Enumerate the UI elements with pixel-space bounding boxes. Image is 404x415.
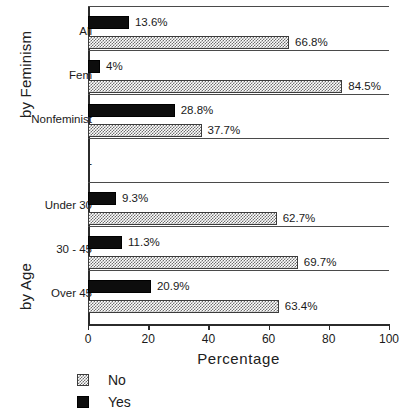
x-tick-0 [88,324,89,330]
bar-value-yes-nonfeminist: 28.8% [181,104,214,117]
bar-value-yes-30-45: 11.3% [128,236,160,249]
category-label-over-45: Over 45 [51,288,92,300]
bar-value-yes-fem: 4% [106,60,123,73]
x-tick-label-40: 40 [202,332,215,346]
bar-value-yes-over-45: 20.9% [157,280,190,293]
x-tick-label-100: 100 [379,332,399,346]
bar-value-no-nonfeminist: 37.7% [208,124,241,137]
legend-label-yes: Yes [108,393,131,411]
x-tick-60 [269,324,270,330]
group-axis-title-feminism: by Feminism [17,31,34,118]
x-tick-40 [208,324,209,330]
x-tick-label-80: 80 [322,332,335,346]
checker-swatch-icon [77,374,89,386]
bar-yes-fem [88,60,100,73]
x-axis-line [88,324,389,326]
category-label-under-30: Under 30 [45,200,92,212]
category-label-nonfeminist: Nonfeminist [31,114,92,126]
bar-value-yes-all: 13.6% [135,16,168,29]
bar-yes-30-45 [88,236,122,249]
group-axis-title-age: by Age [17,263,34,310]
bar-value-no-under-30: 62.7% [283,212,316,225]
solid-swatch-icon [77,396,89,408]
bar-no-fem [88,80,342,93]
x-tick-label-60: 60 [262,332,275,346]
bar-no-30-45 [88,256,298,269]
bar-value-no-all: 66.8% [295,36,328,49]
category-label-30-45: 30 - 45 [56,244,92,256]
bar-yes-all [88,16,129,29]
x-tick-label-20: 20 [142,332,155,346]
bar-value-no-30-45: 69.7% [304,256,337,269]
bar-yes-under-30 [88,192,116,205]
bar-value-no-over-45: 63.4% [285,300,318,313]
bar-no-over-45 [88,300,279,313]
bar-value-yes-under-30: 9.3% [122,192,148,205]
bar-yes-over-45 [88,280,151,293]
grouped-bar-chart: by Feminism by Age All Fem Nonfeminist -… [0,0,404,415]
bar-no-under-30 [88,212,277,225]
bar-yes-nonfeminist [88,104,175,117]
bar-value-no-fem: 84.5% [348,80,381,93]
bar-no-all [88,36,289,49]
separator-line-top [88,6,389,7]
legend-label-no: No [108,371,126,389]
x-tick-label-0: 0 [85,332,92,346]
x-axis-title: Percentage [88,350,389,367]
plot-area: 13.6% 66.8% 4% 84.5% 28.8% 37.7% 9.3% 62… [88,8,389,320]
x-tick-100 [389,324,390,330]
x-tick-80 [329,324,330,330]
x-tick-20 [148,324,149,330]
bar-no-nonfeminist [88,124,202,137]
